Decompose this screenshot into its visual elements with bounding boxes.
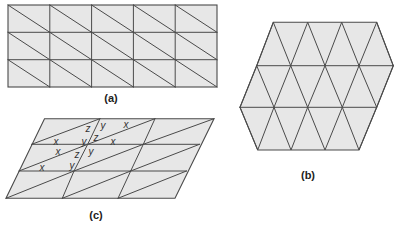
caption-a: (a) bbox=[104, 92, 118, 104]
angle-label: z bbox=[85, 123, 91, 134]
triangulation-diagram: (a) (b) bbox=[0, 0, 399, 228]
angle-label: y bbox=[100, 120, 107, 131]
figure-b-hex-tiling: (b) bbox=[240, 22, 393, 181]
angle-label: z bbox=[93, 132, 99, 143]
para-c-outline bbox=[6, 119, 214, 199]
figure-a-rect-grid: (a) bbox=[8, 5, 217, 104]
caption-c: (c) bbox=[89, 209, 103, 221]
figure-c-parallelogram-grid: z y x y z x x x z y x y (c) bbox=[6, 119, 214, 222]
angle-label: x bbox=[110, 136, 117, 147]
angle-label: y bbox=[69, 160, 76, 171]
caption-b: (b) bbox=[301, 169, 315, 181]
angle-label: y bbox=[81, 136, 88, 147]
angle-label: z bbox=[74, 149, 80, 160]
angle-label: x bbox=[55, 146, 62, 157]
angle-label: y bbox=[88, 146, 95, 157]
angle-label: x bbox=[123, 119, 130, 130]
angle-label: x bbox=[39, 162, 46, 173]
